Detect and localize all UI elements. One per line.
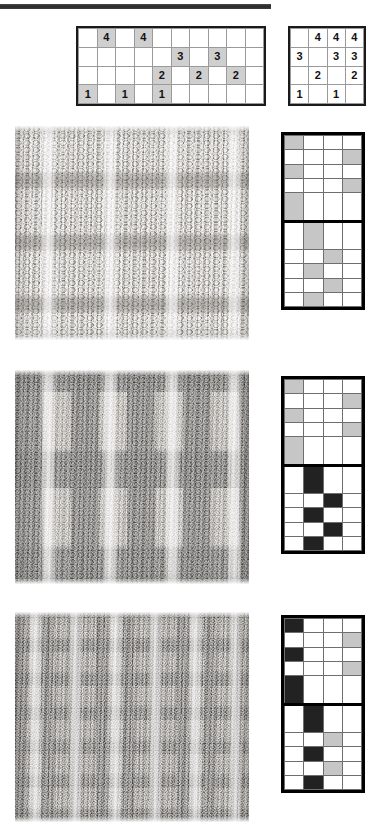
pattern-row [285, 178, 362, 192]
chart-cell-empty [134, 66, 153, 85]
pattern-row [285, 647, 362, 661]
pattern-cell-gray [342, 178, 361, 192]
chart-cell-empty [97, 47, 116, 66]
pattern-cell-white [342, 292, 361, 306]
pattern-row [285, 278, 362, 292]
pattern-row [285, 193, 362, 222]
pattern-row [285, 494, 362, 508]
chart-cell-empty [116, 47, 135, 66]
pattern-cell-white [342, 264, 361, 278]
pattern-cell-white [285, 278, 304, 292]
pattern-row [285, 508, 362, 522]
pattern-cell-white [342, 676, 361, 705]
pattern-cell-black [304, 465, 323, 494]
pattern-cell-white [304, 150, 323, 164]
pattern-cell-white [285, 522, 304, 536]
pattern-cell-white [323, 292, 342, 306]
pattern-cell-white [285, 747, 304, 761]
pattern-chart-2 [281, 376, 365, 554]
pattern-cell-white [323, 536, 342, 550]
chart-cell-value: 2 [153, 66, 172, 85]
chart-row: 111 [79, 85, 264, 104]
chart-cell-empty [208, 29, 227, 48]
pattern-row [285, 676, 362, 705]
pattern-cell-white [304, 178, 323, 192]
pattern-row [285, 136, 362, 150]
knit-swatch-fine-mixed-texture [15, 612, 249, 822]
pattern-row [285, 422, 362, 436]
chart-cell-empty [97, 85, 116, 104]
chart-cell-value: 4 [97, 29, 116, 48]
pattern-cell-gray [323, 278, 342, 292]
knit-swatch-black-cream-colorwork [15, 370, 249, 584]
chart-cell-value: 3 [327, 47, 345, 66]
chart-cell-empty [309, 85, 327, 104]
swatch-vignette-1 [15, 126, 249, 340]
pattern-cell-gray [304, 221, 323, 250]
pattern-cell-white [285, 250, 304, 264]
pattern-cell-white [304, 193, 323, 222]
chart-cell-value: 2 [309, 66, 327, 85]
swatch-bottom-fade-1 [15, 334, 249, 340]
pattern-chart-1 [281, 132, 365, 310]
pattern-chart-3-table [284, 618, 362, 790]
pattern-cell-gray [285, 136, 304, 150]
chart-cell-empty [134, 85, 153, 104]
pattern-cell-white [304, 633, 323, 647]
pattern-cell-black [304, 704, 323, 733]
pattern-cell-black [285, 647, 304, 661]
pattern-cell-white [342, 775, 361, 789]
chart-cell-empty [171, 29, 190, 48]
pattern-cell-white [304, 422, 323, 436]
pattern-cell-white [285, 704, 304, 733]
chart-row: 333 [291, 47, 364, 66]
pattern-cell-white [285, 150, 304, 164]
pattern-cell-white [342, 536, 361, 550]
pattern-row [285, 250, 362, 264]
pattern-cell-gray [285, 380, 304, 394]
chart-cell-empty [116, 66, 135, 85]
chart-cell-empty [190, 85, 209, 104]
pattern-chart-2-table [284, 379, 362, 551]
pattern-row [285, 465, 362, 494]
small-numbered-chart: 4443332211 [288, 26, 366, 106]
pattern-cell-gray [323, 250, 342, 264]
pattern-cell-white [342, 278, 361, 292]
chart-cell-empty [171, 85, 190, 104]
chart-cell-value: 3 [208, 47, 227, 66]
pattern-cell-gray [323, 761, 342, 775]
chart-cell-empty [227, 47, 246, 66]
chart-cell-empty [245, 47, 264, 66]
pattern-cell-white [285, 422, 304, 436]
pattern-cell-white [323, 193, 342, 222]
pattern-cell-white [304, 394, 323, 408]
pattern-cell-white [285, 633, 304, 647]
chart-cell-value: 3 [171, 47, 190, 66]
chart-cell-empty [171, 66, 190, 85]
pattern-row [285, 264, 362, 278]
chart-cell-empty [134, 47, 153, 66]
pattern-cell-white [342, 193, 361, 222]
pattern-row [285, 733, 362, 747]
swatch-top-fade-1 [15, 126, 249, 132]
pattern-cell-white [304, 522, 323, 536]
pattern-row [285, 150, 362, 164]
pattern-cell-white [285, 394, 304, 408]
chart-cell-empty [79, 29, 98, 48]
pattern-cell-white [342, 380, 361, 394]
pattern-cell-white [323, 647, 342, 661]
pattern-cell-white [285, 221, 304, 250]
pattern-cell-white [342, 494, 361, 508]
pattern-cell-black [304, 775, 323, 789]
chart-cell-empty [79, 66, 98, 85]
chart-row: 33 [79, 47, 264, 66]
pattern-cell-white [342, 619, 361, 633]
pattern-cell-white [304, 408, 323, 422]
chart-cell-value: 2 [190, 66, 209, 85]
pattern-cell-white [304, 647, 323, 661]
pattern-cell-gray [285, 164, 304, 178]
top-rule [0, 4, 271, 9]
pattern-cell-white [323, 775, 342, 789]
chart-cell-value: 1 [116, 85, 135, 104]
pattern-cell-white [323, 633, 342, 647]
